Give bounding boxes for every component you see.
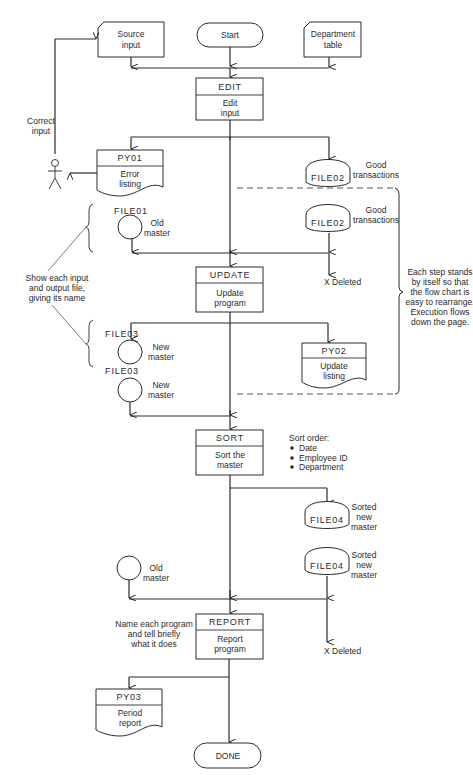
source-input-label-1: Source [118,29,145,39]
py03-desc-1: Period [118,708,143,718]
report-program-desc-2: program [214,644,246,654]
old-master-desc-1: Old [149,563,163,573]
correct-input-loop [55,39,96,154]
deleted-after-update: X Deleted [324,277,362,287]
update-program-desc-2: program [214,298,246,308]
sort-order-list: Sort order: Date Employee ID Department [289,433,348,472]
file04-in-desc-2: new [356,560,372,570]
svg-text:by itself so that: by itself so that [412,277,469,287]
py01-desc-2: listing [119,179,141,189]
py02-desc-1: Update [320,361,348,371]
person-icon [48,160,62,190]
sort-order-title: Sort order: [289,433,329,443]
file02-out-disk: FILE02 Good transactions [306,160,399,187]
svg-text:what it does: what it does [130,639,176,649]
py01-name: PY01 [117,153,142,163]
source-input-card: Source input [98,22,164,57]
sort-program-desc-1: Sort the [215,450,245,460]
done-label: DONE [216,751,241,761]
svg-text:easy to rearrange.: easy to rearrange. [406,297,473,307]
file04-out-desc-1: Sorted [351,502,376,512]
file04-in-desc-3: master [351,570,377,580]
file02-in-desc-1: Good [366,205,387,215]
file03-in-desc-1: New [152,380,170,390]
file04-in-desc-1: Sorted [351,550,376,560]
py03-period-report-doc: PY03 Period report [96,689,162,736]
edit-output-connectors [131,120,329,266]
file04-out-desc-2: new [356,512,372,522]
file03-in-desc-2: master [148,390,174,400]
file01-desc-2: master [144,228,170,238]
payroll-flowchart: Source input Start Department table EDIT… [0,0,473,775]
file03-in-tape: FILE03 New master [105,366,174,402]
report-program-box: REPORT Report program [196,614,263,659]
file02-out-desc-2: transactions [353,170,399,180]
svg-text:down the page.: down the page. [411,317,469,327]
source-input-label-2: input [122,40,141,50]
bullet-icon [290,465,294,469]
sort-output-connectors [230,475,327,613]
py01-desc-1: Error [121,169,140,179]
edit-program-desc-2: input [221,108,240,118]
file03-out-name: FILE03 [105,329,139,339]
old-master-desc-2: master [143,573,169,583]
file03-out-desc-1: New [152,342,170,352]
file01-tape: FILE01 Old master [114,206,170,239]
svg-text:Show each input: Show each input [26,273,89,283]
old-master-tape: Old master [117,556,169,583]
start-terminal: Start [197,23,263,47]
sort-input-connectors [130,402,230,416]
svg-text:giving its name: giving its name [29,293,86,303]
file02-out-name: FILE02 [311,173,345,183]
file03-in-name: FILE03 [105,366,139,376]
svg-text:Execution flows: Execution flows [410,307,469,317]
edit-program-box: EDIT Edit input [196,78,263,120]
edit-program-desc-1: Edit [223,98,238,108]
show-files-annotation: Show each input and output file, giving … [26,204,93,367]
file04-out-disk: FILE04 Sorted new master [305,502,377,533]
file01-desc-1: Old [150,218,164,228]
py02-desc-2: listing [323,371,345,381]
report-program-name: REPORT [209,617,251,627]
update-program-name: UPDATE [210,270,251,280]
edit-program-name: EDIT [218,82,242,92]
report-program-desc-1: Report [217,634,243,644]
department-table-label-1: Department [311,29,356,39]
done-terminal: DONE [194,743,261,768]
sort-program-desc-2: master [217,460,243,470]
svg-text:Each step stands: Each step stands [407,267,472,277]
sort-order-item: Date [299,443,317,453]
sort-program-name: SORT [216,433,244,443]
update-program-box: UPDATE Update program [196,267,263,312]
svg-text:and tell briefly: and tell briefly [128,629,181,639]
file04-out-name: FILE04 [310,515,344,525]
svg-text:input: input [32,126,51,136]
svg-text:Name each program: Name each program [115,619,192,629]
deleted-after-report: X Deleted [324,646,362,656]
file02-in-name: FILE02 [311,218,345,228]
py02-update-listing-doc: PY02 Update listing [302,343,366,388]
department-table-label-2: table [324,40,343,50]
py03-desc-2: report [119,718,142,728]
correct-input-label: Correct input [27,116,56,136]
file02-in-desc-2: transactions [353,215,399,225]
file01-name: FILE01 [114,206,148,216]
file03-out-desc-2: master [148,352,174,362]
py02-name: PY02 [321,346,346,356]
svg-text:the flow chart is: the flow chart is [410,287,469,297]
file02-out-desc-1: Good [366,160,387,170]
name-program-annotation: Name each program and tell briefly what … [115,619,192,649]
file04-out-desc-3: master [351,522,377,532]
py01-error-listing-doc: PY01 Error listing [97,150,163,196]
bullet-icon [290,456,294,460]
start-label: Start [221,30,240,40]
file04-in-name: FILE04 [310,561,344,571]
file03-out-tape: FILE03 New master [105,329,174,364]
sort-order-item: Department [299,462,344,472]
each-step-annotation: Each step stands by itself so that the f… [406,267,473,327]
department-table-card: Department table [304,22,361,57]
svg-text:and output file,: and output file, [29,283,85,293]
bullet-icon [290,446,294,450]
py03-name: PY03 [116,692,141,702]
sort-program-box: SORT Sort the master [196,430,263,475]
